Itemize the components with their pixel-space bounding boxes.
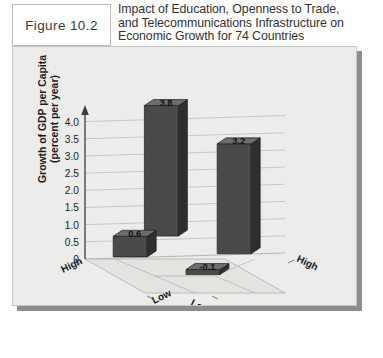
chart-panel: Growth of GDP per Capita (percent per ye… [12, 46, 357, 306]
bar-value-label: 3.2 [232, 135, 245, 146]
chart-floor [85, 259, 285, 293]
bar-front-left: 0.6 [113, 228, 156, 257]
openness-low-label: Low [189, 297, 212, 306]
openness-high-label: High [295, 253, 320, 273]
figure-root: Figure 10.2 Impact of Education, Opennes… [0, 0, 383, 358]
figure-number-box: Figure 10.2 [12, 4, 111, 46]
education-high-label: High [59, 255, 84, 275]
figure-title-line-1: Impact of Education, Openness to Trade, [118, 3, 380, 17]
bar-back-left: 3.8 [144, 97, 187, 236]
figure-title: Impact of Education, Openness to Trade, … [118, 3, 380, 44]
y-axis-line [81, 105, 89, 259]
bar-value-label: -0.1 [199, 261, 215, 272]
bar-back-right: 3.2 [217, 135, 260, 254]
bar-chart-3d: 3.83.20.6-0.1 High Low Low High Educatio… [13, 47, 357, 306]
bar-value-label: 3.8 [159, 97, 172, 108]
bar-value-label: 0.6 [128, 228, 141, 239]
figure-title-line-2: and Telecommunications Infrastructure on [118, 17, 380, 31]
figure-number-label: Figure 10.2 [25, 18, 98, 33]
figure-title-line-3: Economic Growth for 74 Countries [118, 30, 380, 44]
